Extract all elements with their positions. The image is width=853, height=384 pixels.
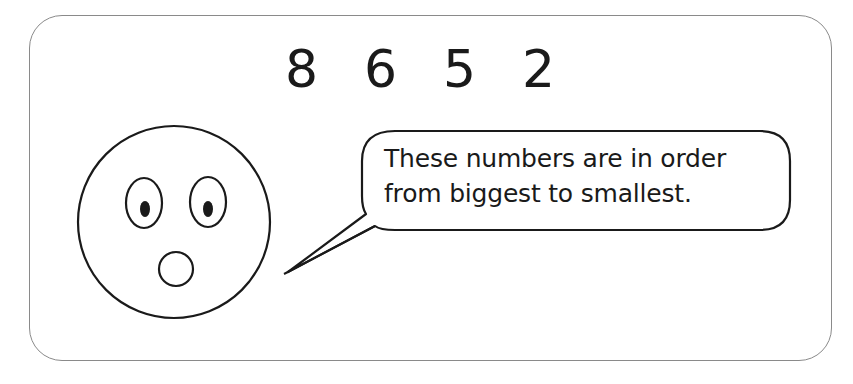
speech-bubble-text: These numbers are in order from biggest … <box>384 141 784 211</box>
speech-line-1: These numbers are in order <box>384 141 784 176</box>
left-pupil <box>140 201 150 217</box>
face-outline <box>78 126 270 318</box>
right-pupil <box>203 201 213 217</box>
speech-bubble-tail <box>284 226 375 274</box>
speech-line-2: from biggest to smallest. <box>384 176 784 211</box>
mouth <box>159 252 193 286</box>
surprised-face-icon <box>78 126 270 318</box>
